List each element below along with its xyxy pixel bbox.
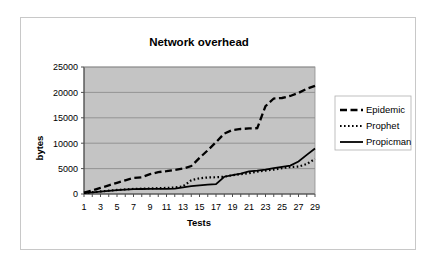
y-tick-label: 25000 xyxy=(53,62,78,72)
x-axis-title: Tests xyxy=(187,217,211,228)
chart-title: Network overhead xyxy=(149,36,249,48)
x-tick-label: 1 xyxy=(81,202,86,212)
legend-label-epidemic: Epidemic xyxy=(366,104,405,115)
network-overhead-chart: Network overhead 05000100001500020000250… xyxy=(21,18,415,249)
x-tick-label: 17 xyxy=(211,202,221,212)
x-tick-label: 23 xyxy=(260,202,270,212)
x-tick-label: 27 xyxy=(293,202,303,212)
x-tick-label: 5 xyxy=(114,202,119,212)
y-tick-label: 15000 xyxy=(53,113,78,123)
x-tick-label: 3 xyxy=(98,202,103,212)
plot-area: 0500010000150002000025000135791113151719… xyxy=(53,62,320,212)
x-tick-label: 13 xyxy=(178,202,188,212)
x-tick-label: 29 xyxy=(310,202,320,212)
chart-legend: EpidemicProphetPropicman xyxy=(335,96,411,150)
x-tick-label: 21 xyxy=(244,202,254,212)
legend-label-propicman: Propicman xyxy=(366,136,411,147)
x-tick-label: 15 xyxy=(194,202,204,212)
x-tick-label: 19 xyxy=(227,202,237,212)
y-tick-label: 10000 xyxy=(53,139,78,149)
x-tick-label: 9 xyxy=(147,202,152,212)
x-tick-label: 7 xyxy=(131,202,136,212)
chart-frame: Network overhead 05000100001500020000250… xyxy=(20,17,416,250)
legend-label-prophet: Prophet xyxy=(366,120,400,131)
y-tick-label: 0 xyxy=(73,189,78,199)
y-tick-label: 20000 xyxy=(53,88,78,98)
plot-background xyxy=(84,67,315,194)
x-tick-label: 11 xyxy=(162,202,171,212)
y-tick-label: 5000 xyxy=(58,164,78,174)
y-axis-title: bytes xyxy=(34,136,45,161)
x-tick-label: 25 xyxy=(277,202,287,212)
